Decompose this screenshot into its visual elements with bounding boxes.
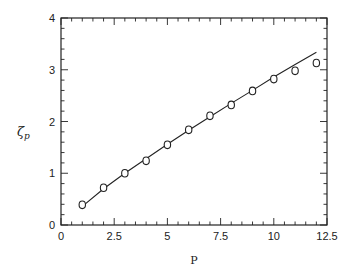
- x-tick-label: 2.5: [107, 230, 122, 242]
- model-line-path: [82, 52, 316, 206]
- y-tick-label: 4: [49, 12, 55, 24]
- y-tick-label: 0: [49, 219, 55, 231]
- data-point-circle-icon: [79, 201, 85, 209]
- axes: [61, 18, 327, 225]
- data-point-circle-icon: [143, 157, 149, 165]
- x-tick-label: 5: [164, 230, 170, 242]
- model-line: [82, 52, 316, 206]
- x-tick-label: 10: [268, 230, 280, 242]
- y-tick-label: 1: [49, 167, 55, 179]
- data-point-circle-icon: [292, 67, 298, 75]
- data-point-circle-icon: [228, 101, 234, 109]
- y-axis-label-sub: p: [24, 131, 30, 141]
- chart: 02.557.51012.501234 P ζp: [0, 0, 344, 276]
- data-point-circle-icon: [100, 184, 106, 192]
- data-point-circle-icon: [207, 112, 213, 120]
- x-tick-label: 7.5: [213, 230, 228, 242]
- x-axis-label: P: [190, 254, 198, 267]
- x-tick-label: 12.5: [316, 230, 337, 242]
- data-markers: [79, 59, 319, 208]
- data-point-circle-icon: [249, 87, 255, 95]
- x-tick-label: 0: [58, 230, 64, 242]
- plot-frame: [61, 18, 327, 225]
- data-point-circle-icon: [122, 169, 128, 177]
- y-tick-label: 3: [49, 64, 55, 76]
- data-point-circle-icon: [164, 141, 170, 149]
- y-axis-label: ζp: [17, 124, 30, 141]
- ticks: [61, 18, 327, 225]
- data-point-circle-icon: [271, 75, 277, 83]
- y-tick-label: 2: [49, 116, 55, 128]
- data-point-circle-icon: [313, 59, 319, 67]
- data-point-circle-icon: [185, 126, 191, 134]
